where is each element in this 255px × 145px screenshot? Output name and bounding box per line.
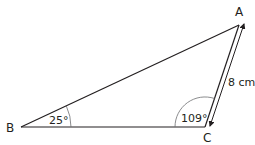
vertex-label-a: A [235, 5, 244, 19]
vertex-label-c: C [203, 131, 211, 145]
angle-label-c: 109° [181, 112, 208, 125]
side-length-label-ac: 8 cm [228, 76, 255, 89]
triangle-diagram: A B C 25° 109° 8 cm [0, 0, 255, 145]
angle-label-b: 25° [49, 114, 69, 127]
vertex-label-b: B [6, 121, 14, 135]
length-arrow-ac [210, 24, 244, 126]
